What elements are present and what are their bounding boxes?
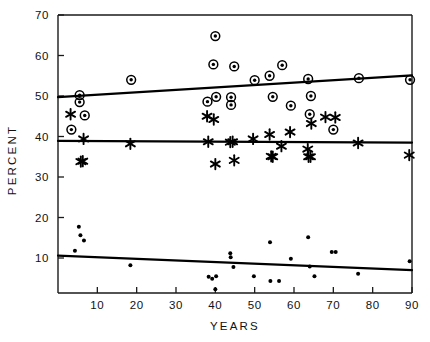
small-dot-marker — [231, 265, 235, 269]
circled-dot-marker — [268, 92, 277, 101]
small-dot-marker — [213, 287, 217, 291]
small-dot-marker — [308, 265, 312, 269]
circled-dot-marker — [80, 111, 89, 120]
chart-figure: 10203040506070 102030405060708090 YEARS … — [0, 0, 430, 342]
small-dot-marker — [330, 250, 334, 254]
x-axis-title: YEARS — [210, 320, 260, 332]
circled-dot-marker — [209, 60, 218, 69]
circled-dot-marker — [250, 76, 259, 85]
small-dot-marker — [78, 233, 82, 237]
scatter-plot-svg: 10203040506070 102030405060708090 YEARS … — [0, 0, 430, 342]
asterisk-marker — [286, 127, 295, 137]
y-tick-label: 30 — [35, 171, 49, 183]
y-axis-tick-labels: 10203040506070 — [35, 9, 49, 264]
circled-dot-marker — [329, 125, 338, 134]
circled-dot-marker — [203, 97, 212, 106]
y-tick-label: 10 — [35, 252, 49, 264]
circled-dot-marker — [278, 61, 287, 70]
circled-dot-marker — [211, 32, 220, 41]
y-tick-label: 20 — [35, 212, 49, 224]
circled-dot-marker — [127, 75, 136, 84]
asterisk-marker — [203, 111, 212, 121]
small-dot-marker — [210, 277, 214, 281]
small-dot-marker — [268, 279, 272, 283]
asterisk-marker — [265, 129, 274, 139]
y-tick-label: 40 — [35, 131, 49, 143]
asterisk-marker — [331, 112, 340, 122]
y-tick-label: 50 — [35, 90, 49, 102]
circled-dot-marker — [212, 92, 221, 101]
x-axis-ticks — [97, 287, 412, 293]
circled-dot-marker — [406, 75, 415, 84]
small-dot-marker — [73, 249, 77, 253]
y-tick-label: 60 — [35, 50, 49, 62]
small-dot-marker — [289, 257, 293, 261]
small-dot-marker — [306, 235, 310, 239]
axes — [58, 15, 412, 293]
x-tick-label: 40 — [208, 299, 222, 311]
asterisk-marker — [307, 118, 316, 128]
y-axis-title: PERCENT — [6, 125, 18, 195]
circled-dot-markers — [67, 32, 414, 134]
circled-dot-marker — [265, 71, 274, 80]
y-axis-ticks — [58, 15, 64, 258]
asterisk-marker — [230, 155, 239, 165]
x-tick-label: 80 — [366, 299, 380, 311]
small-dot-marker — [277, 279, 281, 283]
small-dot-marker — [228, 251, 232, 255]
asterisk-marker — [321, 112, 330, 122]
x-tick-label: 60 — [287, 299, 301, 311]
asterisk-marker — [209, 114, 218, 124]
small-dot-marker — [312, 274, 316, 278]
small-dot-marker — [82, 239, 86, 243]
asterisk-marker — [126, 139, 135, 149]
asterisk-marker — [79, 134, 88, 144]
circled-dot-marker — [307, 92, 316, 101]
small-dot-marker — [268, 240, 272, 244]
small-dot-marker — [356, 272, 360, 276]
x-tick-label: 10 — [90, 299, 104, 311]
circled-dot-marker — [230, 62, 239, 71]
y-tick-label: 70 — [35, 9, 49, 21]
small-dot-marker — [229, 255, 233, 259]
small-dot-marker — [334, 250, 338, 254]
x-tick-label: 50 — [248, 299, 262, 311]
circled-dot-marker — [305, 110, 314, 119]
asterisk-markers — [66, 109, 414, 169]
x-tick-label: 90 — [405, 299, 419, 311]
asterisk-marker — [211, 159, 220, 169]
small-dot-marker — [207, 275, 211, 279]
x-tick-label: 30 — [169, 299, 183, 311]
small-dot-marker — [408, 259, 412, 263]
small-dot-marker — [77, 225, 81, 229]
asterisk-marker — [66, 109, 75, 119]
small-dot-marker — [252, 274, 256, 278]
x-tick-label: 20 — [130, 299, 144, 311]
x-axis-tick-labels: 102030405060708090 — [90, 299, 419, 311]
circled-dot-marker — [67, 125, 76, 134]
small-dot-marker — [214, 274, 218, 278]
x-tick-label: 70 — [326, 299, 340, 311]
circled-dot-marker — [286, 101, 295, 110]
small-dot-marker — [128, 263, 132, 267]
